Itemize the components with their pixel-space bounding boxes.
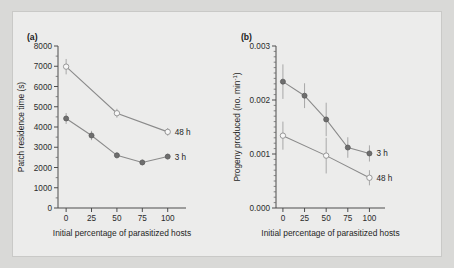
series-48-h: 48 h	[63, 59, 191, 137]
panel-a-plot: (a)0100020003000400050006000700080000255…	[0, 0, 227, 268]
x-tick-label: 75	[138, 214, 148, 223]
figure-root: (a)0100020003000400050006000700080000255…	[0, 0, 454, 268]
panel-tag: (b)	[241, 32, 252, 42]
series-3-h: 3 h	[280, 64, 388, 161]
data-point	[140, 160, 145, 165]
y-tick-label: 0	[47, 204, 52, 213]
data-point	[280, 79, 285, 84]
y-axis-title: Patch residence time (s)	[16, 82, 26, 173]
x-tick-label: 50	[112, 214, 122, 223]
data-point	[345, 145, 350, 150]
y-tick-label: 6000	[34, 83, 53, 92]
x-tick-label: 50	[322, 214, 332, 223]
x-tick-label: 0	[281, 214, 286, 223]
y-tick-label: 0.002	[250, 96, 271, 105]
data-point	[302, 93, 307, 98]
data-point	[367, 175, 372, 180]
x-axis-title: Initial percentage of parasitized hosts	[261, 228, 399, 238]
panel-tag: (a)	[27, 32, 38, 42]
series-line	[66, 67, 168, 132]
data-point	[323, 153, 328, 158]
y-tick-label: 4000	[34, 123, 53, 132]
x-tick-label: 100	[161, 214, 175, 223]
series-label: 3 h	[376, 149, 388, 158]
x-tick-label: 25	[300, 214, 310, 223]
y-tick-label: 2000	[34, 164, 53, 173]
panel-b: (b)0.0000.0010.0020.00302550751003 h48 h…	[227, 0, 454, 268]
y-tick-label: 0.000	[250, 204, 271, 213]
y-tick-label: 8000	[34, 42, 53, 51]
y-tick-label: 0.003	[250, 42, 271, 51]
x-tick-label: 0	[64, 214, 69, 223]
x-tick-label: 25	[87, 214, 97, 223]
series-label: 48 h	[376, 174, 392, 183]
data-point	[114, 111, 119, 116]
y-tick-label: 5000	[34, 103, 53, 112]
series-label: 48 h	[175, 128, 191, 137]
y-tick-label: 7000	[34, 62, 53, 71]
series-3-h: 3 h	[64, 113, 187, 165]
data-point	[165, 129, 170, 134]
figure-panels: (a)0100020003000400050006000700080000255…	[0, 0, 454, 268]
data-point	[64, 116, 69, 121]
series-label: 3 h	[175, 153, 187, 162]
y-tick-label: 1000	[34, 184, 53, 193]
data-point	[367, 151, 372, 156]
panel-a: (a)0100020003000400050006000700080000255…	[0, 0, 227, 268]
data-point	[114, 153, 119, 158]
data-point	[324, 117, 329, 122]
y-tick-label: 3000	[34, 143, 53, 152]
data-point	[280, 133, 285, 138]
data-point	[165, 154, 170, 159]
data-point	[89, 133, 94, 138]
x-tick-label: 100	[363, 214, 377, 223]
x-axis-title: Initial percentage of parasitized hosts	[53, 228, 191, 238]
data-point	[63, 64, 68, 69]
y-axis-title: Progeny produced (no. min-1)	[232, 72, 242, 181]
panel-b-plot: (b)0.0000.0010.0020.00302550751003 h48 h…	[227, 0, 454, 268]
y-tick-label: 0.001	[250, 150, 271, 159]
x-tick-label: 75	[343, 214, 353, 223]
